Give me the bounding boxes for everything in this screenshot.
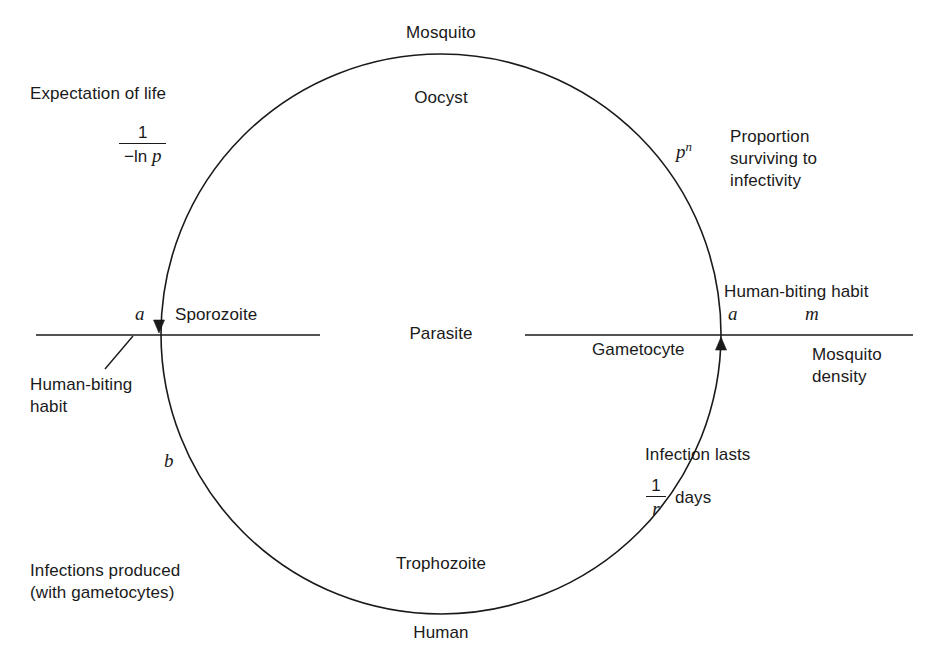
denominator-symbol-p: p bbox=[152, 145, 162, 166]
symbol-p-base: p bbox=[676, 141, 686, 162]
stage-label-gametocyte: Gametocyte bbox=[592, 339, 685, 361]
denominator-prefix: −ln bbox=[124, 147, 152, 166]
symbol-a-right: a bbox=[728, 303, 738, 325]
stage-label-trophozoite: Trophozoite bbox=[396, 553, 486, 575]
infection-duration-denominator: r bbox=[648, 497, 663, 519]
human-biting-habit-right-title: Human-biting habit bbox=[724, 281, 869, 303]
diagram-canvas: Mosquito Oocyst Parasite Trophozoite Hum… bbox=[0, 0, 938, 666]
infection-duration-fraction: 1 r bbox=[646, 477, 666, 519]
human-biting-habit-left-line1: Human-biting bbox=[30, 375, 132, 394]
infections-produced-line1: Infections produced bbox=[30, 561, 180, 580]
infection-duration-unit: days bbox=[675, 487, 711, 509]
mosquito-density-label: Mosquitodensity bbox=[812, 344, 932, 388]
stage-label-parasite: Parasite bbox=[409, 323, 472, 345]
stage-label-oocyst: Oocyst bbox=[414, 87, 468, 109]
proportion-surviving-line1: Proportion bbox=[730, 127, 809, 146]
proportion-surviving-line2: surviving to bbox=[730, 149, 817, 168]
human-biting-habit-leader-line bbox=[105, 336, 133, 369]
human-biting-habit-left-label: Human-bitinghabit bbox=[30, 374, 180, 418]
infection-duration-formula: 1 r days bbox=[646, 477, 711, 519]
symbol-b-left: b bbox=[164, 450, 174, 472]
expectation-of-life-formula: 1 −ln p bbox=[119, 124, 166, 166]
stage-label-human: Human bbox=[413, 622, 468, 644]
infections-produced-label: Infections produced(with gametocytes) bbox=[30, 560, 260, 604]
expectation-of-life-title: Expectation of life bbox=[30, 83, 166, 105]
symbol-a-left: a bbox=[135, 303, 145, 325]
infections-produced-line2: (with gametocytes) bbox=[30, 583, 174, 602]
gametocyte-up-arrow-icon bbox=[716, 337, 727, 350]
proportion-surviving-line3: infectivity bbox=[730, 171, 801, 190]
symbol-n-exponent: n bbox=[686, 139, 693, 154]
expectation-of-life-denominator: −ln p bbox=[119, 144, 166, 166]
mosquito-density-line1: Mosquito bbox=[812, 345, 882, 364]
stage-label-mosquito: Mosquito bbox=[406, 22, 476, 44]
infection-lasts-title: Infection lasts bbox=[645, 444, 750, 466]
infection-duration-numerator: 1 bbox=[647, 477, 664, 496]
expectation-of-life-numerator: 1 bbox=[133, 124, 152, 143]
human-biting-habit-left-line2: habit bbox=[30, 397, 67, 416]
stage-label-sporozoite: Sporozoite bbox=[175, 304, 257, 326]
mosquito-density-line2: density bbox=[812, 367, 867, 386]
sporozoite-down-arrow-icon bbox=[154, 320, 165, 333]
proportion-surviving-label: Proportionsurviving toinfectivity bbox=[730, 126, 920, 192]
symbol-m-right: m bbox=[805, 303, 819, 325]
symbol-p-to-n: pn bbox=[676, 141, 692, 163]
